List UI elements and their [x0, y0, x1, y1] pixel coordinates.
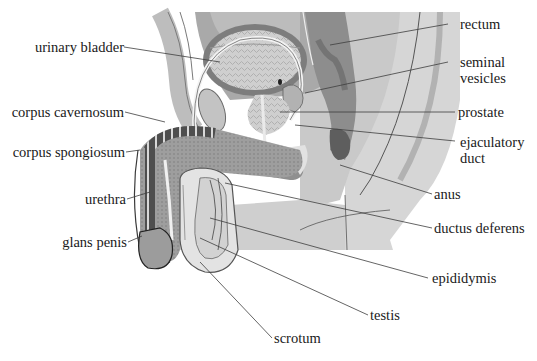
- label-glans-penis: glans penis: [20, 234, 127, 250]
- label-corpus-cavernosum: corpus cavernosum: [0, 104, 124, 120]
- label-corpus-spongiosum: corpus spongiosum: [0, 144, 125, 160]
- label-urethra: urethra: [40, 191, 126, 207]
- label-urinary-bladder: urinary bladder: [6, 39, 124, 55]
- label-seminal-vesicles-line2: vesicles: [460, 70, 506, 86]
- label-rectum: rectum: [460, 16, 500, 32]
- body-section: [134, 12, 460, 272]
- anatomy-diagram: urinary bladder corpus cavernosum corpus…: [0, 0, 537, 361]
- label-anus: anus: [434, 186, 461, 202]
- label-prostate: prostate: [458, 104, 504, 120]
- label-seminal-vesicles-line1: seminal: [460, 54, 505, 70]
- label-ejaculatory-duct-line1: ejaculatory: [460, 134, 524, 150]
- label-ejaculatory-duct-line2: duct: [460, 150, 485, 166]
- label-scrotum: scrotum: [274, 330, 321, 346]
- label-epididymis: epididymis: [432, 270, 496, 286]
- label-ductus-deferens: ductus deferens: [434, 220, 525, 236]
- label-testis: testis: [370, 307, 400, 323]
